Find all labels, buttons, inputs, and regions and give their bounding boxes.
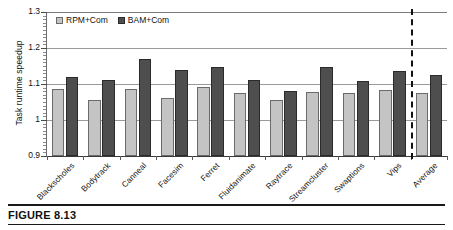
bar: [175, 70, 188, 156]
bar-chart: Task runtime speedup 0.911.11.21.3 Black…: [0, 0, 453, 196]
y-axis-minor-tick: [43, 88, 46, 89]
x-axis-tick: [374, 156, 375, 160]
figure-caption: FIGURE 8.13: [8, 209, 445, 221]
y-axis-tick-label: 1.2: [10, 43, 40, 52]
y-axis-minor-tick: [43, 70, 46, 71]
legend-label-rpm: RPM+Com: [66, 15, 108, 25]
y-axis-minor-tick: [43, 30, 46, 31]
legend-label-bam: BAM+Com: [128, 15, 169, 25]
y-axis-minor-tick: [43, 131, 46, 132]
x-axis-tick: [338, 156, 339, 160]
bar: [52, 89, 65, 156]
bar: [393, 71, 406, 156]
y-axis-minor-tick: [43, 66, 46, 67]
y-axis-tick-label: 1.3: [10, 7, 40, 16]
gridline: [47, 156, 447, 157]
y-axis-minor-tick: [43, 73, 46, 74]
y-axis-minor-tick: [43, 55, 46, 56]
caption-rule-bottom: [8, 224, 445, 226]
y-axis-minor-tick: [43, 142, 46, 143]
y-axis-minor-tick: [43, 138, 46, 139]
bar: [357, 81, 370, 156]
bar: [343, 93, 356, 156]
bar: [125, 89, 138, 156]
bar: [306, 92, 319, 156]
y-axis-minor-tick: [43, 145, 46, 146]
y-axis-minor-tick: [43, 37, 46, 38]
x-axis-tick: [156, 156, 157, 160]
y-axis-minor-tick: [43, 80, 46, 81]
y-axis-minor-tick: [43, 152, 46, 153]
y-axis-minor-tick: [43, 134, 46, 135]
legend-swatch-bam-icon: [118, 17, 125, 24]
caption-rule-top: [8, 204, 445, 206]
figure-8-13: Task runtime speedup 0.911.11.21.3 Black…: [0, 0, 453, 230]
bar: [248, 80, 261, 156]
y-axis-minor-tick: [43, 59, 46, 60]
chart-legend: RPM+Com BAM+Com: [56, 15, 169, 25]
bar: [139, 59, 152, 156]
y-axis-minor-tick: [43, 77, 46, 78]
y-axis-tick-label: 1.1: [10, 79, 40, 88]
y-axis-minor-tick: [43, 149, 46, 150]
bar: [379, 90, 392, 156]
bar: [430, 75, 443, 156]
y-axis-minor-tick: [43, 16, 46, 17]
y-axis-tick-label: 1: [10, 115, 40, 124]
plot-area: [47, 12, 447, 156]
bar: [211, 67, 224, 156]
y-axis-minor-tick: [43, 41, 46, 42]
y-axis-minor-tick: [43, 95, 46, 96]
y-axis-minor-tick: [43, 91, 46, 92]
y-axis-minor-tick: [43, 124, 46, 125]
bar: [161, 98, 174, 156]
x-axis-tick: [192, 156, 193, 160]
y-axis-minor-tick: [43, 106, 46, 107]
y-axis-minor-tick: [43, 127, 46, 128]
legend-swatch-rpm-icon: [56, 17, 63, 24]
gridline: [47, 48, 447, 49]
x-axis-tick: [447, 156, 448, 160]
x-axis-tick: [302, 156, 303, 160]
x-axis-tick: [83, 156, 84, 160]
x-axis-tick: [120, 156, 121, 160]
caption-block: FIGURE 8.13: [8, 204, 445, 225]
y-axis-minor-tick: [43, 34, 46, 35]
y-axis-tick-label: 0.9: [10, 151, 40, 160]
x-axis-tick: [265, 156, 266, 160]
bar: [320, 67, 333, 156]
y-axis-minor-tick: [43, 62, 46, 63]
x-axis-tick: [47, 156, 48, 160]
y-axis-minor-tick: [43, 26, 46, 27]
y-axis-minor-tick: [43, 98, 46, 99]
bar: [284, 91, 297, 156]
gridline: [47, 12, 447, 13]
bar: [102, 80, 115, 156]
y-axis-minor-tick: [43, 23, 46, 24]
y-axis-minor-tick: [43, 113, 46, 114]
legend-item-rpm: RPM+Com: [56, 15, 108, 25]
bar: [66, 77, 79, 156]
y-axis-minor-tick: [43, 44, 46, 45]
bar: [234, 93, 247, 156]
average-separator-dashed-line: [411, 9, 413, 159]
y-axis-minor-tick: [43, 52, 46, 53]
x-axis-tick: [229, 156, 230, 160]
y-axis-minor-tick: [43, 19, 46, 20]
bar: [416, 93, 429, 156]
y-axis-minor-tick: [43, 116, 46, 117]
legend-item-bam: BAM+Com: [118, 15, 169, 25]
y-axis-minor-tick: [43, 109, 46, 110]
y-axis-minor-tick: [43, 102, 46, 103]
bar: [270, 100, 283, 156]
bar: [197, 87, 210, 156]
bar: [88, 100, 101, 156]
